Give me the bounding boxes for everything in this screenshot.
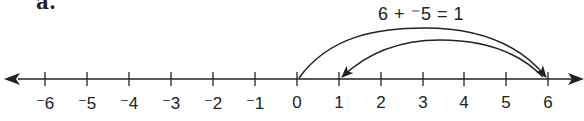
tick-label: ⁻3 bbox=[162, 93, 180, 114]
tick-label: 4 bbox=[459, 93, 468, 113]
tick-label: ⁻2 bbox=[204, 93, 222, 114]
tick-label: ⁻4 bbox=[120, 93, 138, 114]
left-arrow-icon bbox=[4, 73, 20, 85]
tick-label: ⁻5 bbox=[78, 93, 96, 114]
tick-label: 6 bbox=[543, 93, 552, 113]
tick-label: 2 bbox=[376, 93, 385, 113]
tick-label: 5 bbox=[501, 93, 510, 113]
tick-label: 1 bbox=[334, 93, 343, 113]
jump-arc-6-to-1 bbox=[342, 40, 543, 77]
tick-label: ⁻6 bbox=[36, 93, 54, 114]
tick-label: 3 bbox=[418, 93, 427, 113]
tick-label: ⁻1 bbox=[246, 93, 264, 114]
tick-label: 0 bbox=[292, 93, 301, 113]
